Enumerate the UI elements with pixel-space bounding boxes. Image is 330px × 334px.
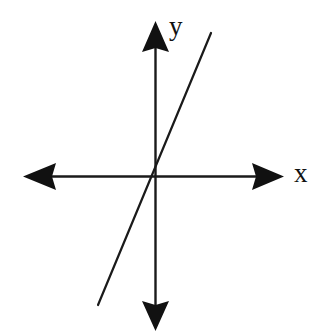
x-axis-label: x <box>294 160 308 187</box>
coordinate-plane-svg <box>0 0 330 334</box>
coordinate-plane-figure: x y <box>0 0 330 334</box>
y-axis-label: y <box>169 13 183 40</box>
